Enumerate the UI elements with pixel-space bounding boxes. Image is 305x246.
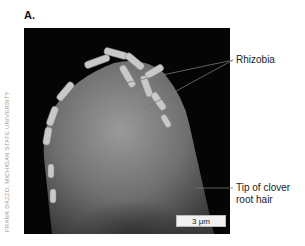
- rhizobia-leader-line-2: [145, 60, 233, 108]
- root-hair-tip-label-line1: Tip of clover: [236, 182, 290, 194]
- root-hair-tip-label: Tip of clover root hair: [236, 182, 290, 206]
- rhizobia-label: Rhizobia: [236, 54, 275, 66]
- leader-lines: [0, 0, 305, 246]
- scale-bar: 3 μm: [176, 215, 226, 227]
- rhizobia-leader-line-1: [125, 60, 233, 83]
- root-hair-tip-label-line2: root hair: [236, 194, 290, 206]
